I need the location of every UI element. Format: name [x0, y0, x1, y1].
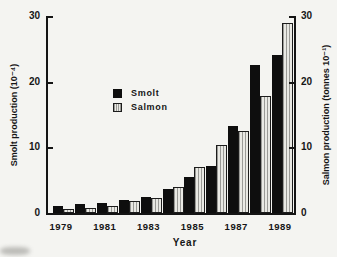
legend-entry-smolt: Smolt — [113, 88, 168, 98]
smolt-swatch-icon — [113, 89, 122, 98]
bar-salmon-1984 — [173, 187, 184, 213]
x-tick-label-1987: 1987 — [218, 221, 254, 232]
bar-smolt-1981 — [97, 203, 107, 213]
bar-chart-figure: 0102030 0102030 197919811983198519871989… — [0, 0, 337, 257]
x-axis-title: Year — [150, 237, 220, 248]
scan-artifact — [0, 247, 30, 255]
bar-smolt-1988 — [250, 65, 260, 213]
x-tick-label-1985: 1985 — [174, 221, 210, 232]
legend-entry-salmon: Salmon — [113, 102, 168, 112]
x-tick-label-1983: 1983 — [131, 221, 167, 232]
y-tick-left-20 — [48, 82, 53, 84]
y-tick-left-30 — [48, 16, 53, 18]
bar-smolt-1980 — [75, 204, 85, 213]
bar-smolt-1986 — [206, 166, 216, 213]
x-tick-label-1981: 1981 — [87, 221, 123, 232]
y-axis-title-left: Smolt production (10⁻⁴) — [8, 30, 20, 200]
x-tick-label-1989: 1989 — [262, 221, 298, 232]
y-tick-right-10 — [289, 147, 294, 149]
salmon-swatch-icon — [113, 103, 122, 112]
bar-salmon-1987 — [238, 131, 249, 213]
plot-area — [46, 16, 296, 215]
bar-salmon-1982 — [129, 201, 140, 213]
bar-salmon-1986 — [216, 145, 227, 213]
legend-label-smolt: Smolt — [131, 88, 160, 98]
bar-smolt-1989 — [272, 55, 282, 213]
legend-label-salmon: Salmon — [131, 102, 168, 112]
y-tick-label-left-30: 30 — [18, 11, 40, 21]
bar-salmon-1983 — [151, 198, 162, 213]
bar-smolt-1979 — [53, 206, 63, 213]
bar-salmon-1985 — [194, 167, 205, 213]
y-tick-right-20 — [289, 82, 294, 84]
bar-smolt-1982 — [119, 200, 129, 213]
bar-smolt-1985 — [184, 177, 194, 213]
bar-smolt-1984 — [163, 189, 173, 213]
bar-smolt-1987 — [228, 126, 238, 213]
y-tick-label-right-0: 0 — [301, 208, 323, 218]
y-tick-label-left-0: 0 — [18, 208, 40, 218]
bar-salmon-1979 — [63, 209, 74, 213]
bar-salmon-1988 — [260, 96, 271, 213]
y-tick-label-left-10: 10 — [18, 142, 40, 152]
bar-salmon-1989 — [282, 23, 293, 213]
y-tick-left-10 — [48, 147, 53, 149]
legend: Smolt Salmon — [113, 88, 168, 116]
y-tick-label-right-30: 30 — [301, 11, 323, 21]
bar-salmon-1981 — [107, 206, 118, 213]
y-tick-label-left-20: 20 — [18, 77, 40, 87]
bar-salmon-1980 — [85, 208, 96, 213]
y-axis-title-right: Salmon production (tonnes 10⁻¹) — [320, 30, 332, 200]
x-tick-label-1979: 1979 — [43, 221, 79, 232]
bar-smolt-1983 — [141, 197, 151, 213]
y-tick-right-30 — [289, 16, 294, 18]
